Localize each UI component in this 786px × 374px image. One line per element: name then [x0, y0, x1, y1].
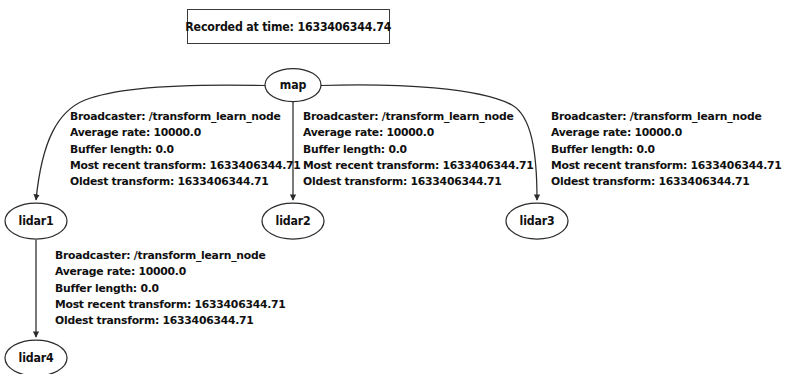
edge-oldest-transform: Oldest transform: 1633406344.71 [55, 313, 286, 329]
edge-average-rate: Average rate: 10000.0 [303, 125, 534, 141]
edge-oldest-transform: Oldest transform: 1633406344.71 [70, 174, 301, 190]
recorded-time-text: Recorded at time: 1633406344.74 [185, 20, 391, 34]
edge-most-recent-transform: Most recent transform: 1633406344.71 [303, 158, 534, 174]
edge-oldest-transform: Oldest transform: 1633406344.71 [551, 174, 782, 190]
recorded-time-box: Recorded at time: 1633406344.74 [187, 9, 390, 44]
edge-buffer-length: Buffer length: 0.0 [70, 142, 301, 158]
edge-most-recent-transform: Most recent transform: 1633406344.71 [55, 297, 286, 313]
edge-average-rate: Average rate: 10000.0 [55, 264, 286, 280]
node-label-map: map [264, 78, 322, 92]
edge-broadcaster: Broadcaster: /transform_learn_node [55, 248, 286, 264]
edge-broadcaster: Broadcaster: /transform_learn_node [70, 109, 301, 125]
edge-label-lidar1-lidar4: Broadcaster: /transform_learn_node Avera… [55, 248, 296, 329]
edge-label-map-lidar3: Broadcaster: /transform_learn_node Avera… [551, 109, 786, 190]
node-label-lidar3: lidar3 [508, 214, 566, 228]
edge-buffer-length: Buffer length: 0.0 [303, 142, 534, 158]
edge-buffer-length: Buffer length: 0.0 [551, 142, 782, 158]
edge-average-rate: Average rate: 10000.0 [70, 125, 301, 141]
edge-most-recent-transform: Most recent transform: 1633406344.71 [551, 158, 782, 174]
edge-average-rate: Average rate: 10000.0 [551, 125, 782, 141]
edge-buffer-length: Buffer length: 0.0 [55, 281, 286, 297]
edge-oldest-transform: Oldest transform: 1633406344.71 [303, 174, 534, 190]
node-label-lidar1: lidar1 [7, 214, 65, 228]
node-label-lidar2: lidar2 [264, 214, 322, 228]
edge-broadcaster: Broadcaster: /transform_learn_node [551, 109, 782, 125]
edge-label-map-lidar2: Broadcaster: /transform_learn_node Avera… [303, 109, 544, 190]
edge-label-map-lidar1: Broadcaster: /transform_learn_node Avera… [70, 109, 311, 190]
edge-most-recent-transform: Most recent transform: 1633406344.71 [70, 158, 301, 174]
edge-broadcaster: Broadcaster: /transform_learn_node [303, 109, 534, 125]
node-label-lidar4: lidar4 [7, 351, 65, 365]
